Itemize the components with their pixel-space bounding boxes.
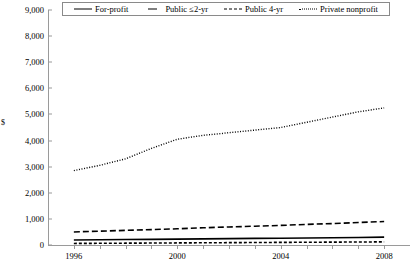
y-axis-tick-mark bbox=[48, 114, 52, 115]
y-axis-tick-label: 1,000 bbox=[0, 214, 44, 223]
y-axis-tick-mark bbox=[48, 166, 52, 167]
y-axis-tick-label: 4,000 bbox=[0, 136, 44, 145]
y-axis-tick-label: 3,000 bbox=[0, 162, 44, 171]
y-axis-tick-mark bbox=[48, 88, 52, 89]
series-line-private-nonprofit bbox=[74, 108, 384, 171]
x-axis-tick-mark bbox=[358, 245, 359, 249]
x-axis-tick-mark bbox=[384, 245, 385, 249]
x-axis-tick-mark bbox=[126, 245, 127, 249]
x-axis-tick-mark bbox=[281, 245, 282, 249]
y-axis-tick-label: 5,000 bbox=[0, 110, 44, 119]
y-axis-tick-mark bbox=[48, 10, 52, 11]
chart-legend: For-profit Public ≤2-yr Public 4-yr Priv… bbox=[62, 2, 390, 16]
y-axis-tick-label: 7,000 bbox=[0, 58, 44, 67]
legend-item-public-4yr: Public 4-yr bbox=[224, 5, 283, 14]
legend-line-dotted-icon bbox=[299, 5, 317, 13]
legend-label: Public 4-yr bbox=[245, 5, 283, 14]
y-axis-tick-label: 6,000 bbox=[0, 84, 44, 93]
x-axis-tick-mark bbox=[307, 245, 308, 249]
x-axis-tick-mark bbox=[151, 245, 152, 249]
x-axis-tick-mark bbox=[203, 245, 204, 249]
legend-label: Private nonprofit bbox=[320, 5, 378, 14]
series-layer bbox=[0, 0, 419, 268]
y-axis-tick-mark bbox=[48, 245, 52, 246]
x-axis-tick-label: 2000 bbox=[169, 251, 186, 261]
x-axis-tick-mark bbox=[74, 245, 75, 249]
legend-label: Public ≤2-yr bbox=[165, 5, 208, 14]
y-axis-line bbox=[48, 10, 49, 246]
x-axis-tick-mark bbox=[332, 245, 333, 249]
legend-item-for-profit: For-profit bbox=[74, 5, 128, 14]
y-axis-tick-label: 8,000 bbox=[0, 32, 44, 41]
x-axis-tick-mark bbox=[177, 245, 178, 249]
y-axis-label: $ bbox=[1, 118, 5, 127]
y-axis-tick-label: 0 bbox=[0, 241, 44, 250]
series-line-for-profit bbox=[74, 237, 384, 240]
y-axis-tick-label: 9,000 bbox=[0, 6, 44, 15]
y-axis-tick-label: 2,000 bbox=[0, 188, 44, 197]
x-axis-tick-mark bbox=[100, 245, 101, 249]
legend-item-public-2yr: Public ≤2-yr bbox=[144, 5, 208, 14]
y-axis-tick-mark bbox=[48, 36, 52, 37]
x-axis-tick-label: 2008 bbox=[376, 251, 393, 261]
series-line-public-4-yr bbox=[74, 222, 384, 232]
legend-line-dashed-icon bbox=[224, 5, 242, 13]
y-axis-tick-mark bbox=[48, 62, 52, 63]
x-axis-tick-mark bbox=[229, 245, 230, 249]
y-axis-tick-mark bbox=[48, 218, 52, 219]
y-axis-tick-mark bbox=[48, 192, 52, 193]
x-axis-tick-label: 2004 bbox=[272, 251, 289, 261]
legend-label: For-profit bbox=[95, 5, 128, 14]
series-line-public-2-yr bbox=[74, 242, 384, 244]
x-axis-tick-mark bbox=[255, 245, 256, 249]
y-axis-tick-mark bbox=[48, 140, 52, 141]
legend-item-private-nonprofit: Private nonprofit bbox=[299, 5, 378, 14]
x-axis-tick-label: 1996 bbox=[65, 251, 82, 261]
chart-container: For-profit Public ≤2-yr Public 4-yr Priv… bbox=[0, 0, 419, 268]
legend-line-short-solid-icon bbox=[144, 5, 162, 13]
legend-line-solid-icon bbox=[74, 5, 92, 13]
